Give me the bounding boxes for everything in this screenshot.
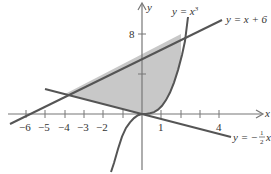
x-tick-label: −3 (77, 121, 89, 133)
x-tick-label: −4 (58, 121, 70, 133)
x-tick-label: −6 (19, 121, 31, 133)
x-tick-label: −5 (38, 121, 50, 133)
y-tick-label: 8 (129, 28, 135, 40)
line-lower-label: y = − (232, 131, 258, 143)
line-upper-label: y = x + 6 (225, 13, 268, 25)
graph-canvas: −6 −5 −4 −3 −2 1 4 8 x y y = x3 y = x + … (0, 0, 271, 174)
fraction-denominator: 2 (260, 138, 264, 146)
line-lower-label-x: x (265, 131, 271, 143)
line-upper-curve (10, 20, 222, 124)
y-axis-label: y (146, 1, 152, 13)
x-tick-label: 4 (216, 121, 222, 133)
x-axis-label: x (264, 107, 270, 119)
x-tick-label: −2 (96, 121, 108, 133)
cubic-label: y = x3 (171, 5, 199, 17)
fraction-numerator: 1 (260, 129, 264, 137)
x-tick-label: 1 (158, 121, 164, 133)
